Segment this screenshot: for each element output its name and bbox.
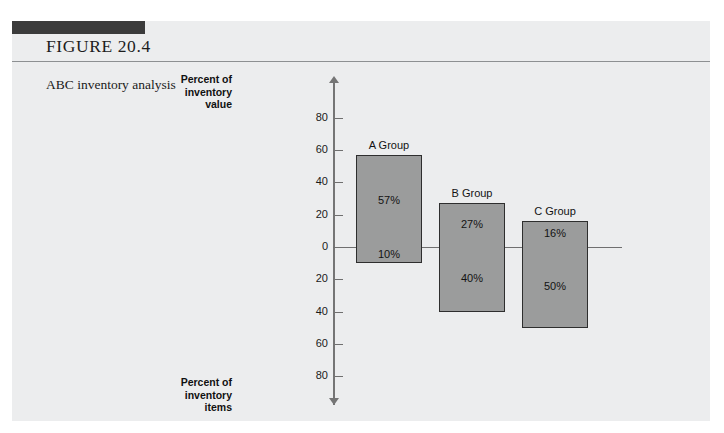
bar-value-value-c-group: 16%: [522, 227, 588, 239]
tick-label-top-60: 60: [288, 143, 328, 155]
tick-mark-bottom-60: [335, 344, 343, 345]
abc-inventory-chart: Percent of inventory value Percent of in…: [12, 21, 710, 421]
axis-label-inventory-value: Percent of inventory value: [112, 73, 232, 111]
axis-label-bottom-line-1: Percent of: [112, 376, 232, 389]
figure-panel: FIGURE 20.4 ABC inventory analysis Perce…: [12, 21, 710, 421]
tick-mark-bottom-80: [335, 376, 343, 377]
axis-label-bottom-line-3: items: [112, 401, 232, 414]
tick-mark-top-40: [335, 182, 343, 183]
tick-label-bottom-20: 20: [288, 272, 328, 284]
axis-label-inventory-items: Percent of inventory items: [112, 376, 232, 414]
axis-arrow-up-icon: [329, 76, 339, 83]
tick-label-top-80: 80: [288, 111, 328, 123]
axis-label-bottom-line-2: inventory: [112, 389, 232, 402]
bar-value-items-b-group: 40%: [439, 272, 505, 284]
tick-label-bottom-60: 60: [288, 337, 328, 349]
bar-value-value-a-group: 57%: [356, 194, 422, 206]
axis-label-top-line-1: Percent of: [112, 73, 232, 86]
bar-value-value-b-group: 27%: [439, 218, 505, 230]
tick-mark-bottom-40: [335, 312, 343, 313]
tick-mark-bottom-20: [335, 279, 343, 280]
bar-label-c-group: C Group: [522, 205, 588, 217]
bar-value-items-c-group: 50%: [522, 280, 588, 292]
tick-label-bottom-40: 40: [288, 305, 328, 317]
tick-mark-top-20: [335, 215, 343, 216]
tick-mark-top-80: [335, 118, 343, 119]
tick-label-bottom-80: 80: [288, 369, 328, 381]
tick-label-top-20: 20: [288, 208, 328, 220]
tick-label-top-0: 0: [288, 240, 328, 252]
tick-label-top-40: 40: [288, 175, 328, 187]
axis-label-top-line-3: value: [112, 98, 232, 111]
axis-arrow-down-icon: [329, 398, 339, 405]
bar-label-a-group: A Group: [356, 139, 422, 151]
bar-label-b-group: B Group: [439, 187, 505, 199]
axis-label-top-line-2: inventory: [112, 86, 232, 99]
tick-mark-top-60: [335, 150, 343, 151]
bar-value-items-a-group: 10%: [356, 248, 422, 260]
bar-a-group[interactable]: [356, 155, 422, 263]
y-axis-line: [333, 82, 335, 405]
